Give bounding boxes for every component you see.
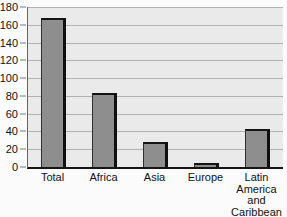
x-axis-category-label-africa: Africa <box>78 172 129 217</box>
bar-africa <box>92 93 117 167</box>
x-axis-category-label-europe: Europe <box>180 172 231 217</box>
y-axis-tick-mark <box>20 24 26 25</box>
y-axis-tick-label: 20 <box>6 144 18 155</box>
bar-slot-latin-america-and-caribbean <box>232 7 283 167</box>
y-axis-tick-mark <box>20 95 26 96</box>
y-axis-tick-label: 180 <box>0 2 18 13</box>
bar-europe <box>194 163 219 167</box>
bar-chart-figure: 180 160 140 120 100 80 60 40 20 0 <box>0 0 287 217</box>
y-axis-tick-mark <box>20 42 26 43</box>
y-axis-tick-label: 0 <box>12 162 18 173</box>
y-axis-tick-label: 80 <box>6 90 18 101</box>
plot-area <box>27 7 283 169</box>
y-axis-tick-label: 100 <box>0 73 18 84</box>
y-axis-tick-mark <box>20 78 26 79</box>
y-axis-tick-label: 40 <box>6 126 18 137</box>
x-axis: Total Africa Asia Europe Latin America a… <box>27 172 282 217</box>
y-axis-tick-label: 160 <box>0 19 18 30</box>
bar-slot-total <box>28 7 79 167</box>
y-axis-tick-mark <box>20 167 26 168</box>
x-axis-category-label-latin-america-and-caribbean: Latin America and Caribbean <box>231 172 282 217</box>
x-axis-category-label-asia: Asia <box>129 172 180 217</box>
y-axis-tick-mark <box>20 7 26 8</box>
y-axis-tick-mark <box>20 149 26 150</box>
bar-slot-asia <box>130 7 181 167</box>
x-axis-category-label-total: Total <box>27 172 78 217</box>
y-axis-tick-label: 120 <box>0 55 18 66</box>
y-axis-tick-mark <box>20 131 26 132</box>
bar-slot-europe <box>181 7 232 167</box>
bars-row <box>28 7 283 167</box>
bar-latin-america-and-caribbean <box>245 129 270 167</box>
y-axis-tick-mark <box>20 113 26 114</box>
bar-slot-africa <box>79 7 130 167</box>
y-axis: 180 160 140 120 100 80 60 40 20 0 <box>0 7 27 167</box>
bar-asia <box>143 142 168 167</box>
y-axis-tick-label: 140 <box>0 37 18 48</box>
y-axis-tick-label: 60 <box>6 108 18 119</box>
y-axis-tick-mark <box>20 60 26 61</box>
bar-total <box>41 18 66 167</box>
